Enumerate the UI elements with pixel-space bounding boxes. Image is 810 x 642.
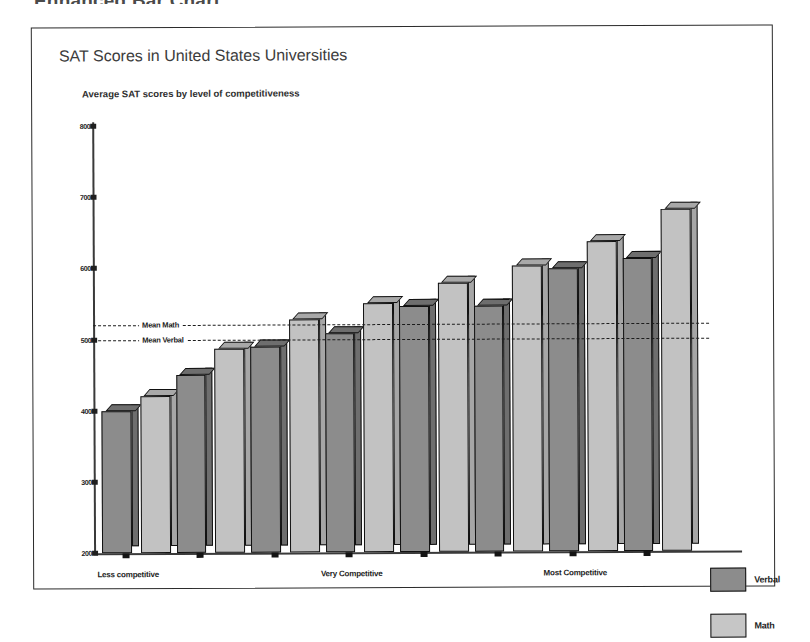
plot-area: 200300400500600700800 Mean MathMean Verb… [60, 119, 750, 562]
y-tick-label: 700 [80, 194, 91, 201]
bar-verbal-6-side [578, 262, 586, 545]
y-tick-mark [90, 124, 96, 129]
page-heading: Enhanced Bar Chart [34, 0, 220, 4]
y-tick-mark [91, 195, 97, 200]
chart-legend: Verbal Math [710, 567, 780, 642]
bar-verbal-7[interactable] [622, 258, 653, 551]
chart-title: SAT Scores in United States Universities [59, 46, 347, 65]
x-category-label: Less competitive [97, 570, 159, 579]
legend-swatch-verbal [710, 568, 746, 592]
bar-verbal-2[interactable] [250, 346, 281, 553]
legend-label-verbal: Verbal [754, 574, 780, 584]
y-tick-label: 200 [82, 550, 93, 557]
bar-verbal-5[interactable] [473, 306, 504, 552]
bar-verbal-4-side [429, 299, 437, 545]
bars-layer [60, 119, 748, 122]
chart-figure-frame: SAT Scores in United States Universities… [31, 24, 775, 589]
y-tick-label: 300 [81, 479, 92, 486]
y-tick-mark [92, 480, 98, 485]
y-tick-label: 500 [81, 336, 92, 343]
bar-math-5-top [516, 258, 552, 265]
bar-verbal-5-side [503, 299, 511, 545]
legend-swatch-math [710, 614, 746, 638]
bar-verbal-6[interactable] [548, 269, 579, 552]
reference-line-label-mean-math: Mean Math [139, 321, 182, 330]
reference-line-label-mean-verbal: Mean Verbal [139, 335, 187, 344]
reference-lines-layer: Mean MathMean Verbal [60, 119, 748, 122]
bar-verbal-0[interactable] [101, 411, 131, 553]
bar-verbal-3[interactable] [325, 333, 356, 552]
x-axis-category-labels: Less competitiveVery CompetitiveMost Com… [60, 119, 748, 122]
bar-math-7[interactable] [661, 209, 692, 551]
bar-math-1[interactable] [214, 348, 245, 552]
x-axis-ticks [60, 119, 748, 122]
y-tick-mark [91, 408, 97, 413]
bar-verbal-2-side [280, 339, 288, 545]
y-tick-mark [91, 266, 97, 271]
legend-label-math: Math [754, 620, 774, 630]
bar-math-2[interactable] [289, 319, 320, 553]
bar-verbal-1[interactable] [176, 375, 207, 553]
y-tick-label: 800 [80, 123, 91, 130]
x-category-label: Very Competitive [321, 569, 383, 578]
y-tick-label: 600 [80, 265, 91, 272]
bar-math-0[interactable] [140, 396, 170, 553]
legend-item-verbal: Verbal [710, 567, 780, 591]
x-category-label: Most Competitive [543, 568, 607, 577]
bar-verbal-6-top [551, 262, 587, 269]
bar-verbal-4[interactable] [399, 306, 430, 552]
bar-math-5[interactable] [512, 265, 543, 551]
bar-math-3[interactable] [363, 303, 394, 552]
bar-verbal-0-side [131, 404, 139, 546]
y-tick-mark [92, 551, 98, 556]
y-tick-label: 400 [81, 408, 92, 415]
bar-verbal-7-side [652, 251, 660, 544]
bar-math-6[interactable] [587, 241, 618, 551]
bar-math-1-top [218, 341, 254, 348]
bar-verbal-3-side [354, 326, 362, 545]
y-axis-ticks: 200300400500600700800 [60, 119, 748, 122]
legend-item-math: Math [710, 613, 780, 637]
bar-verbal-1-side [206, 368, 214, 546]
chart-subtitle: Average SAT scores by level of competiti… [82, 87, 300, 99]
